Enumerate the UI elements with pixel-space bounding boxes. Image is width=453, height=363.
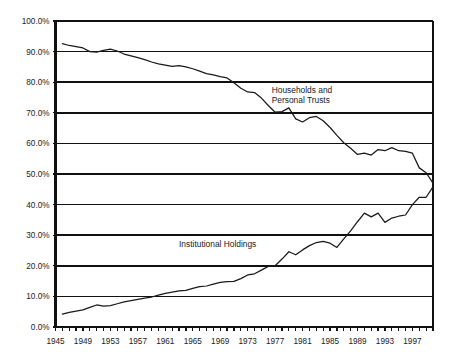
- x-tick-label: 1965: [184, 337, 203, 346]
- x-tick-label: 1977: [266, 337, 285, 346]
- series-line: [62, 187, 433, 314]
- x-tick-label: 1953: [101, 337, 120, 346]
- y-tick-label: 0.0%: [31, 323, 50, 332]
- y-tick-labels-group: 100.0%90.0%80.0%70.0%60.0%50.0%40.0%30.0…: [22, 17, 50, 332]
- series-paths-group: [62, 44, 433, 315]
- households-label-line2: Personal Trusts: [272, 95, 330, 105]
- y-tick-label: 80.0%: [26, 78, 49, 87]
- x-tick-label: 1981: [293, 337, 312, 346]
- households-label: Households and: [272, 85, 333, 95]
- y-tick-label: 30.0%: [26, 231, 49, 240]
- x-tick-label: 1997: [403, 337, 422, 346]
- x-tick-label: 1969: [211, 337, 230, 346]
- y-tick-label: 50.0%: [26, 170, 49, 179]
- x-tick-label: 1961: [156, 337, 175, 346]
- chart-container: 100.0%90.0%80.0%70.0%60.0%50.0%40.0%30.0…: [0, 0, 453, 363]
- x-tick-label: 1973: [239, 337, 258, 346]
- x-tick-label: 1957: [129, 337, 148, 346]
- y-tick-label: 100.0%: [22, 17, 50, 26]
- y-tick-label: 60.0%: [26, 139, 49, 148]
- y-tick-label: 90.0%: [26, 48, 49, 57]
- x-tick-label: 1945: [46, 337, 65, 346]
- x-tick-label: 1949: [74, 337, 93, 346]
- y-tick-label: 40.0%: [26, 201, 49, 210]
- y-tick-label: 20.0%: [26, 262, 49, 271]
- x-tick-labels-group: 1945194919531957196119651969197319771981…: [46, 337, 422, 346]
- x-tick-label: 1985: [321, 337, 340, 346]
- x-tick-label: 1989: [348, 337, 367, 346]
- y-axis-line: [53, 21, 56, 327]
- line-chart: 100.0%90.0%80.0%70.0%60.0%50.0%40.0%30.0…: [0, 0, 453, 363]
- y-tick-label: 10.0%: [26, 292, 49, 301]
- institutional-label: Institutional Holdings: [179, 239, 256, 249]
- annotations-group: Households andPersonal TrustsInstitution…: [179, 85, 333, 250]
- y-tick-label: 70.0%: [26, 109, 49, 118]
- gridlines-group: [56, 21, 434, 327]
- x-tick-label: 1993: [376, 337, 395, 346]
